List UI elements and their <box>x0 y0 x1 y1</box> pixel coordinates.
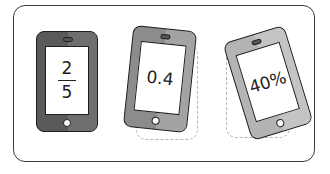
home-button-icon <box>63 119 71 127</box>
phone-decimal: 0.4 <box>122 26 200 138</box>
phone-fraction: 2 5 <box>36 31 98 132</box>
fraction-display: 2 5 <box>58 60 76 101</box>
phone-screen: 2 5 <box>45 46 89 115</box>
denominator: 5 <box>62 84 73 101</box>
speaker-icon <box>63 37 73 42</box>
phone-screen: 0.4 <box>134 41 187 115</box>
numerator: 2 <box>62 60 73 77</box>
speaker-icon <box>160 34 170 40</box>
phone-percent: 40% <box>222 26 312 144</box>
fraction-bar <box>58 80 76 81</box>
decimal-value: 0.4 <box>146 67 175 90</box>
percent-value: 40% <box>247 67 289 97</box>
